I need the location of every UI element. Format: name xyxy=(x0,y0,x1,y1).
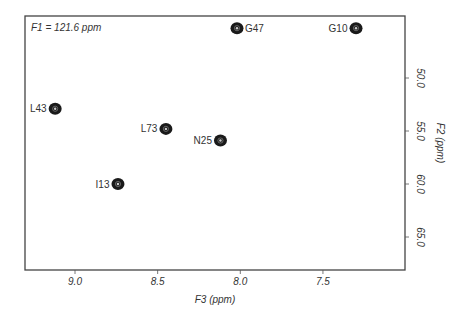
x-tick-label: 7.5 xyxy=(316,276,330,287)
y-tick-label: 60.0 xyxy=(415,174,426,194)
peak-label: L73 xyxy=(141,123,158,134)
peak-label: N25 xyxy=(194,135,213,146)
y-axis-title: F2 (ppm) xyxy=(435,123,446,164)
x-tick-label: 8.5 xyxy=(151,276,165,287)
peak-label: L43 xyxy=(30,103,47,114)
peak-label: G10 xyxy=(329,23,348,34)
y-tick-label: 65.0 xyxy=(415,227,426,247)
x-tick-label: 8.0 xyxy=(233,276,247,287)
peak-g10: G10 xyxy=(329,22,363,34)
y-tick-label: 50.0 xyxy=(415,68,426,88)
nmr-spectrum-plot: F1 = 121.6 ppm 9.08.58.07.5 50.055.060.0… xyxy=(0,0,459,319)
peak-n25: N25 xyxy=(194,135,227,147)
peaks-layer: G47G10L43L73N25I13 xyxy=(30,22,363,190)
peak-label: I13 xyxy=(96,179,110,190)
x-axis-ticks: 9.08.58.07.5 xyxy=(68,270,330,287)
x-tick-label: 9.0 xyxy=(68,276,82,287)
peak-l43: L43 xyxy=(30,103,62,115)
y-tick-label: 55.0 xyxy=(415,121,426,141)
x-axis-title: F3 (ppm) xyxy=(195,294,236,305)
peak-l73: L73 xyxy=(141,123,173,135)
peak-i13: I13 xyxy=(96,178,125,190)
y-axis-ticks: 50.055.060.065.0 xyxy=(405,68,426,247)
peak-label: G47 xyxy=(245,23,264,34)
peak-g47: G47 xyxy=(230,22,264,34)
field-annotation: F1 = 121.6 ppm xyxy=(31,22,101,33)
